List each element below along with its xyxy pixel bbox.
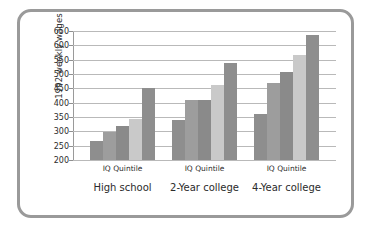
y-tick-label: 250 xyxy=(43,141,69,150)
bar-group xyxy=(254,31,319,160)
bar[interactable] xyxy=(267,83,280,160)
y-tick-label: 650 xyxy=(43,27,69,36)
x-axis-sublabel: IQ Quintile xyxy=(165,164,245,173)
y-tick-label: 300 xyxy=(43,127,69,136)
bar[interactable] xyxy=(280,72,293,160)
bar[interactable] xyxy=(172,120,185,160)
y-tick-label: 500 xyxy=(43,70,69,79)
y-tick-label: 600 xyxy=(43,41,69,50)
y-tick-label: 400 xyxy=(43,98,69,107)
bar-series-container xyxy=(73,31,336,160)
y-tick-label: 200 xyxy=(43,156,69,165)
bar[interactable] xyxy=(224,63,237,160)
y-tick-label: 550 xyxy=(43,55,69,64)
bar-group xyxy=(172,31,237,160)
bar[interactable] xyxy=(293,55,306,160)
bar[interactable] xyxy=(90,141,103,160)
bar[interactable] xyxy=(185,100,198,160)
x-axis-category-label: 4-Year college xyxy=(237,182,337,193)
figure-frame: 1992 weekly wages 2002503003504004505005… xyxy=(17,9,354,218)
bar-chart: 1992 weekly wages 2002503003504004505005… xyxy=(20,12,357,221)
bar[interactable] xyxy=(116,126,129,160)
y-tick-label: 450 xyxy=(43,84,69,93)
gridline xyxy=(73,160,336,161)
x-axis-sublabel: IQ Quintile xyxy=(83,164,163,173)
bar[interactable] xyxy=(211,85,224,160)
bar[interactable] xyxy=(254,114,267,160)
bar[interactable] xyxy=(129,119,142,160)
y-tick-label: 350 xyxy=(43,113,69,122)
bar[interactable] xyxy=(103,132,116,160)
y-axis-tick-labels: 200250300350400450500550600650 xyxy=(39,31,69,160)
bar[interactable] xyxy=(142,88,155,160)
bar[interactable] xyxy=(198,100,211,160)
bar[interactable] xyxy=(306,35,319,160)
x-axis-sublabel: IQ Quintile xyxy=(247,164,327,173)
bar-group xyxy=(90,31,155,160)
